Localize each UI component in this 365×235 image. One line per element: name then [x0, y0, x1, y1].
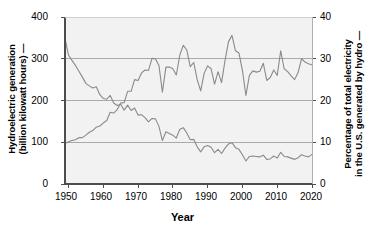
hydroelectric-generation-chart: Hydroelectric generation (billion kilowa… — [0, 0, 365, 235]
plot-area — [0, 0, 365, 235]
